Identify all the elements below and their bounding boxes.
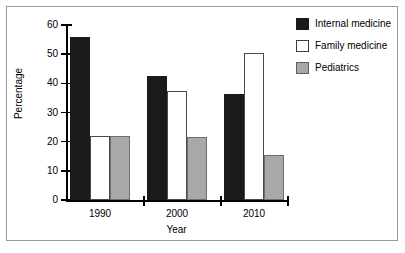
legend-label: Internal medicine: [315, 18, 391, 29]
chart-legend: Internal medicineFamily medicinePediatri…: [296, 14, 396, 80]
y-axis-title: Percentage: [13, 49, 24, 139]
x-axis-line: [66, 200, 287, 202]
x-tick-label-2010: 2010: [224, 208, 284, 219]
legend-item-pediatrics: Pediatrics: [296, 58, 396, 77]
y-tick-label-text: 10: [36, 166, 58, 176]
bar-2010-pediatrics: [264, 155, 284, 200]
legend-item-family-medicine: Family medicine: [296, 36, 396, 55]
legend-item-internal-medicine: Internal medicine: [296, 14, 396, 33]
legend-label: Family medicine: [315, 40, 387, 51]
x-tick-1: [220, 196, 222, 206]
y-tick-label-30: 30: [32, 108, 58, 118]
y-tick-60: [61, 24, 72, 26]
y-tick-label-text: 50: [36, 49, 58, 59]
chart-figure: Percentage Year 0102030405060 1990200020…: [0, 0, 405, 253]
y-tick-label-10: 10: [32, 166, 58, 176]
y-tick-label-text: 40: [36, 78, 58, 88]
bar-2010-family-medicine: [244, 53, 264, 200]
bar-2000-pediatrics: [187, 137, 207, 200]
y-tick-label-20: 20: [32, 137, 58, 147]
y-tick-label-text: 30: [36, 108, 58, 118]
y-tick-label-50: 50: [32, 49, 58, 59]
legend-swatch-icon: [296, 40, 309, 52]
bar-1990-internal-medicine: [70, 37, 90, 200]
bar-1990-pediatrics: [110, 136, 130, 200]
legend-swatch-icon: [296, 62, 309, 74]
bar-2000-internal-medicine: [147, 76, 167, 200]
legend-swatch-icon: [296, 18, 309, 30]
bar-2010-internal-medicine: [224, 94, 244, 200]
x-tick-2: [287, 196, 289, 206]
y-tick-label-text: 60: [36, 20, 58, 30]
y-tick-label-0: 0: [32, 195, 58, 205]
x-tick-label-1990: 1990: [70, 208, 130, 219]
y-tick-label-text: 20: [36, 137, 58, 147]
x-tick-0: [143, 196, 145, 206]
x-tick-label-2000: 2000: [147, 208, 207, 219]
y-tick-label-40: 40: [32, 78, 58, 88]
legend-label: Pediatrics: [315, 62, 359, 73]
x-axis-title: Year: [66, 224, 287, 235]
bar-2000-family-medicine: [167, 91, 187, 200]
y-tick-label-60: 60: [32, 20, 58, 30]
bar-1990-family-medicine: [90, 136, 110, 200]
y-tick-label-text: 0: [36, 195, 58, 205]
